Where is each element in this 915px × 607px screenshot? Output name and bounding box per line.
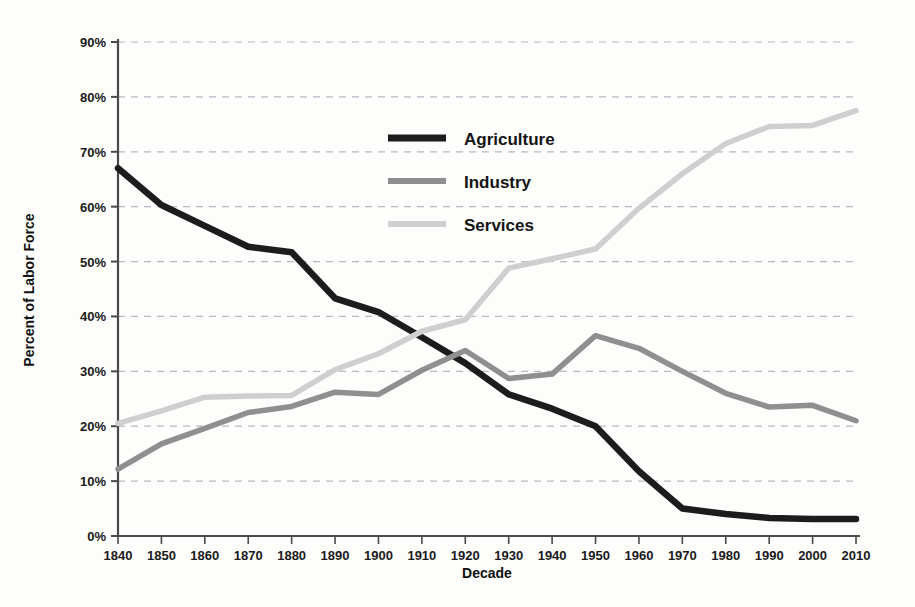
x-tick-label-1960: 1960 (624, 548, 653, 563)
x-tick-label-1880: 1880 (277, 548, 306, 563)
x-tick-label-1990: 1990 (755, 548, 784, 563)
legend-label-agriculture: Agriculture (464, 130, 555, 149)
y-tick-label-10%: 10% (80, 474, 106, 489)
x-tick-label-1970: 1970 (668, 548, 697, 563)
y-tick-label-40%: 40% (80, 309, 106, 324)
x-tick-label-1890: 1890 (321, 548, 350, 563)
y-tick-label-60%: 60% (80, 200, 106, 215)
x-tick-label-1950: 1950 (581, 548, 610, 563)
chart-container: 0%10%20%30%40%50%60%70%80%90% 1840185018… (0, 0, 915, 607)
x-tick-label-1920: 1920 (451, 548, 480, 563)
y-tick-label-30%: 30% (80, 364, 106, 379)
y-tick-label-70%: 70% (80, 145, 106, 160)
x-tick-label-1900: 1900 (364, 548, 393, 563)
x-tick-label-1910: 1910 (407, 548, 436, 563)
x-tick-label-1850: 1850 (147, 548, 176, 563)
x-tick-label-1860: 1860 (190, 548, 219, 563)
y-tick-label-20%: 20% (80, 419, 106, 434)
labor-force-line-chart: 0%10%20%30%40%50%60%70%80%90% 1840185018… (0, 0, 915, 607)
y-tick-label-80%: 80% (80, 90, 106, 105)
x-tick-label-1980: 1980 (711, 548, 740, 563)
x-axis-title: Decade (462, 565, 512, 581)
x-tick-label-1940: 1940 (538, 548, 567, 563)
y-tick-label-0%: 0% (87, 529, 106, 544)
legend-label-services: Services (464, 216, 534, 235)
x-tick-label-2010: 2010 (842, 548, 871, 563)
y-tick-label-90%: 90% (80, 35, 106, 50)
y-axis-title: Percent of Labor Force (21, 213, 37, 366)
x-tick-label-1930: 1930 (494, 548, 523, 563)
x-tick-label-2000: 2000 (798, 548, 827, 563)
x-tick-label-1870: 1870 (234, 548, 263, 563)
legend-label-industry: Industry (464, 173, 532, 192)
y-tick-label-50%: 50% (80, 255, 106, 270)
x-tick-label-1840: 1840 (104, 548, 133, 563)
